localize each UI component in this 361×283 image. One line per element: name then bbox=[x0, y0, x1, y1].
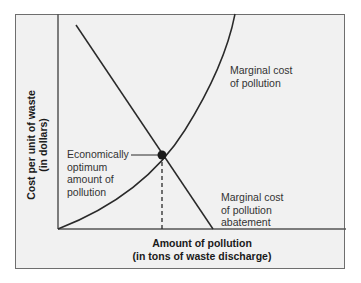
label-line: abatement bbox=[221, 216, 283, 229]
x-axis-label-line2: (in tons of waste discharge) bbox=[58, 250, 346, 263]
x-axis-label: Amount of pollution (in tons of waste di… bbox=[58, 237, 346, 263]
label-line: of pollution bbox=[221, 204, 283, 217]
y-axis-label-line2: (in dollars) bbox=[37, 90, 49, 200]
optimum-label: Economically optimum amount of pollution bbox=[67, 148, 129, 198]
y-axis-label: Cost per unit of waste (in dollars) bbox=[16, 60, 58, 230]
label-line: Marginal cost bbox=[221, 191, 283, 204]
label-line: Economically bbox=[67, 148, 129, 161]
label-line: amount of bbox=[67, 173, 129, 186]
marginal-cost-of-pollution-label: Marginal cost of pollution bbox=[230, 64, 292, 89]
x-axis-label-line1: Amount of pollution bbox=[58, 237, 346, 250]
y-axis-label-line1: Cost per unit of waste bbox=[25, 90, 37, 200]
optimum-point-marker bbox=[158, 151, 167, 160]
label-line: optimum bbox=[67, 161, 129, 174]
label-line: pollution bbox=[67, 186, 129, 199]
marginal-cost-of-abatement-label: Marginal cost of pollution abatement bbox=[221, 191, 283, 229]
label-line: of pollution bbox=[230, 77, 292, 90]
label-line: Marginal cost bbox=[230, 64, 292, 77]
marginal-cost-of-abatement-line bbox=[76, 25, 213, 229]
